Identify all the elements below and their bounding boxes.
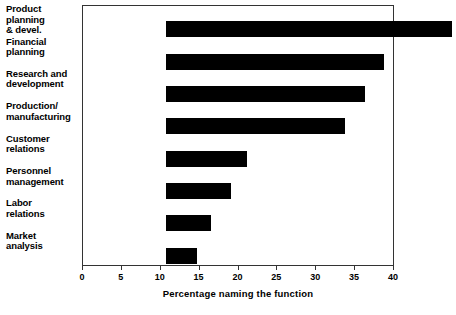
bar (166, 118, 345, 134)
x-tick (315, 266, 316, 270)
x-tick-label: 30 (310, 272, 320, 282)
x-axis-title: Percentage naming the function (82, 288, 394, 299)
x-tick (199, 266, 200, 270)
bar (166, 54, 384, 70)
bar (166, 151, 247, 167)
x-tick-label: 0 (79, 272, 84, 282)
x-tick-label: 5 (118, 272, 123, 282)
bar (166, 183, 231, 199)
category-label: Labor relations (0, 198, 77, 219)
x-tick-label: 35 (349, 272, 359, 282)
x-tick (82, 266, 83, 270)
x-tick-label: 10 (155, 272, 165, 282)
x-axis-tick-labels: 0510152025303540 (82, 272, 394, 284)
category-axis-labels: Product planning & devel.Financial plann… (0, 5, 80, 266)
plot-area (82, 5, 394, 266)
x-tick-label: 20 (232, 272, 242, 282)
x-tick (354, 266, 355, 270)
x-axis-ticks (82, 266, 394, 271)
x-tick (276, 266, 277, 270)
x-tick-label: 25 (271, 272, 281, 282)
category-label: Market analysis (0, 231, 77, 252)
x-tick (121, 266, 122, 270)
bars-layer (166, 12, 456, 271)
bar (166, 86, 365, 102)
x-tick-label: 15 (194, 272, 204, 282)
category-label: Production/ manufacturing (0, 101, 77, 122)
x-tick (238, 266, 239, 270)
category-label: Financial planning (0, 37, 77, 58)
category-label: Product planning & devel. (0, 4, 77, 36)
category-label: Customer relations (0, 134, 77, 155)
bar (166, 21, 452, 37)
x-tick (160, 266, 161, 270)
x-tick-label: 40 (388, 272, 398, 282)
bar (166, 215, 211, 231)
category-label: Research and development (0, 69, 77, 90)
x-tick (393, 266, 394, 270)
bar (166, 248, 197, 264)
category-label: Personnel management (0, 166, 77, 187)
